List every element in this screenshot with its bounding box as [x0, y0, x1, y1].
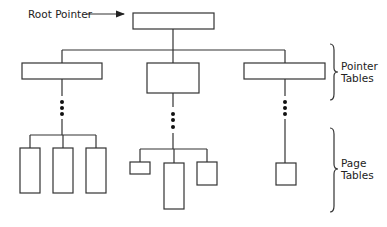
page-table-hierarchy-diagram	[0, 0, 387, 227]
pointer-tables-brace	[330, 44, 338, 100]
page-table	[164, 163, 184, 209]
pointer-tables-label-line2: Tables	[341, 72, 374, 84]
page-table	[20, 148, 40, 193]
pointer-table-right	[244, 63, 325, 79]
pointer-table-left	[22, 63, 102, 79]
root-table-box	[133, 13, 214, 29]
pointer-table-center	[147, 63, 199, 93]
page-table	[276, 163, 296, 185]
page-table	[130, 162, 150, 174]
page-tables-label-line1: Page	[341, 157, 366, 169]
root-pointer-label: Root Pointer	[28, 8, 92, 20]
page-tables-label-line2: Tables	[341, 169, 374, 181]
pointer-tables-label-line1: Pointer	[341, 60, 378, 72]
page-tables-brace	[330, 128, 338, 212]
page-table	[86, 148, 106, 193]
page-table	[53, 148, 73, 193]
page-table	[197, 162, 217, 185]
